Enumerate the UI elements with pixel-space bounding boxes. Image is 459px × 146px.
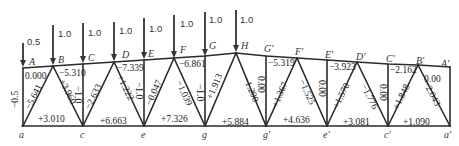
load-arrow-D [111, 22, 117, 61]
node-label-G-prime: G' [264, 43, 274, 54]
node-label-C-prime: C' [386, 53, 396, 64]
force-G'F': −5.319 [268, 58, 295, 68]
force-FG: −6.861 [179, 59, 206, 69]
load-label-A: 0.5 [27, 36, 40, 47]
force-eF: −0.047 [144, 78, 164, 107]
force-ac: +3.010 [38, 114, 65, 124]
node-label-E: E [147, 48, 154, 59]
load-arrow-B [50, 25, 56, 65]
load-label-G: 1.0 [209, 14, 222, 25]
node-label-a-prime: a' [444, 129, 452, 140]
force-BC: −5.310 [59, 68, 86, 78]
force-C'B': −2.162 [390, 65, 417, 75]
load-arrow-F [171, 15, 177, 58]
node-label-g: g [202, 129, 207, 140]
node-label-F-prime: F' [294, 46, 304, 57]
node-label-A-prime: A' [440, 58, 450, 69]
force-De: +1.222 [115, 73, 136, 102]
force-D'c': −1.776 [359, 82, 380, 111]
node-label-c: c [80, 129, 85, 140]
node-label-H: H [240, 40, 249, 51]
force-E'e': 0.00 [317, 80, 327, 97]
force-Aa: −0.5 [10, 91, 20, 108]
load-labels: 0.5 1.0 1.0 1.0 1.0 1.0 1.0 1.0 [27, 14, 253, 47]
force-Gg: −1.0 [195, 84, 205, 101]
force-DE: −7.339 [117, 63, 144, 73]
force-e'c': +3.081 [343, 117, 370, 127]
node-label-e: e [141, 129, 146, 140]
bottom-chord-forces: +3.010 +6.663 +7.326 +5.884 +4.636 +3.08… [38, 114, 430, 127]
node-label-A: A [28, 56, 36, 67]
bottom-node-labels: a c e g g' e' c' a' [19, 129, 452, 140]
loads [20, 10, 239, 67]
force-g'F': +1.367 [270, 80, 290, 109]
truss-diagram: 0.5 1.0 1.0 1.0 1.0 1.0 1.0 1.0 [0, 0, 459, 146]
load-label-C: 1.0 [88, 27, 101, 38]
force-c'B': +1.848 [391, 82, 412, 111]
load-label-H: 1.0 [240, 14, 253, 25]
force-F'e': −1.525 [297, 78, 317, 107]
force-gg': +5.884 [222, 117, 249, 127]
force-cD: −2.633 [83, 82, 104, 111]
load-arrow-A [20, 43, 26, 67]
load-label-E: 1.0 [149, 23, 162, 34]
node-label-c-prime: c' [384, 129, 391, 140]
force-AB: 0.000 [25, 71, 47, 81]
node-label-E-prime: E' [324, 49, 334, 60]
force-c'a': +1.090 [403, 117, 430, 127]
load-arrow-E [141, 18, 147, 59]
force-eg: +7.326 [161, 114, 188, 124]
load-label-B: 1.0 [58, 28, 71, 39]
load-arrow-H [233, 10, 239, 52]
load-label-D: 1.0 [119, 25, 132, 36]
node-label-C: C [88, 52, 95, 63]
node-label-e-prime: e' [323, 129, 330, 140]
force-aB: −5.641 [23, 82, 44, 111]
force-Fg: −1.039 [174, 79, 194, 108]
node-label-F: F [179, 44, 187, 55]
node-label-g-prime: g' [263, 129, 271, 140]
force-e'D': +1.570 [331, 81, 352, 110]
load-arrow-C [80, 23, 86, 63]
node-label-D: D [121, 49, 130, 60]
node-label-G: G [209, 40, 216, 51]
load-label-F: 1.0 [180, 18, 193, 29]
node-label-a: a [19, 129, 24, 140]
force-C'c': 0.00 [378, 84, 388, 101]
force-ce: +6.663 [100, 116, 127, 126]
node-label-B: B [58, 54, 64, 65]
force-g'e': +4.636 [283, 115, 310, 125]
node-label-D-prime: D' [355, 51, 366, 62]
load-arrow-G [202, 12, 208, 56]
node-label-B-prime: B' [416, 55, 425, 66]
force-E'D': −3.923 [329, 62, 356, 72]
